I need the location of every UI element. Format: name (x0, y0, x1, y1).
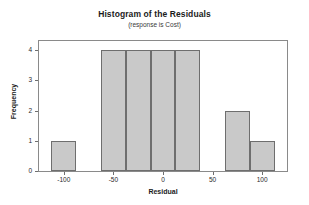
histogram-bar (225, 111, 250, 171)
y-tick-mark (35, 171, 38, 172)
x-tick-mark (113, 172, 114, 175)
y-tick-mark (35, 80, 38, 81)
histogram-bar (175, 50, 200, 171)
histogram-bar (51, 141, 76, 171)
histogram-bar (250, 141, 275, 171)
y-tick-mark (35, 141, 38, 142)
x-axis-title: Residual (38, 188, 288, 195)
x-tick-mark (213, 172, 214, 175)
plot-area (39, 41, 287, 171)
x-tick-label: 0 (148, 176, 178, 183)
x-tick-label: -50 (98, 176, 128, 183)
y-axis-title: Frequency (10, 67, 17, 137)
y-tick-mark (35, 50, 38, 51)
histogram-bar (101, 50, 126, 171)
histogram-bar (151, 50, 176, 171)
x-tick-label: 100 (247, 176, 277, 183)
y-tick-label: 1 (18, 137, 32, 144)
y-tick-label: 3 (18, 76, 32, 83)
x-tick-mark (262, 172, 263, 175)
histogram-bar (126, 50, 151, 171)
y-tick-label: 2 (18, 107, 32, 114)
x-tick-label: -100 (49, 176, 79, 183)
histogram-figure: Histogram of the Residuals (response is … (0, 0, 309, 205)
chart-title: Histogram of the Residuals (0, 9, 309, 19)
x-tick-label: 50 (198, 176, 228, 183)
chart-subtitle: (response is Cost) (0, 21, 309, 28)
x-tick-mark (163, 172, 164, 175)
y-tick-mark (35, 111, 38, 112)
x-tick-mark (64, 172, 65, 175)
y-tick-label: 4 (18, 46, 32, 53)
y-tick-label: 0 (18, 167, 32, 174)
